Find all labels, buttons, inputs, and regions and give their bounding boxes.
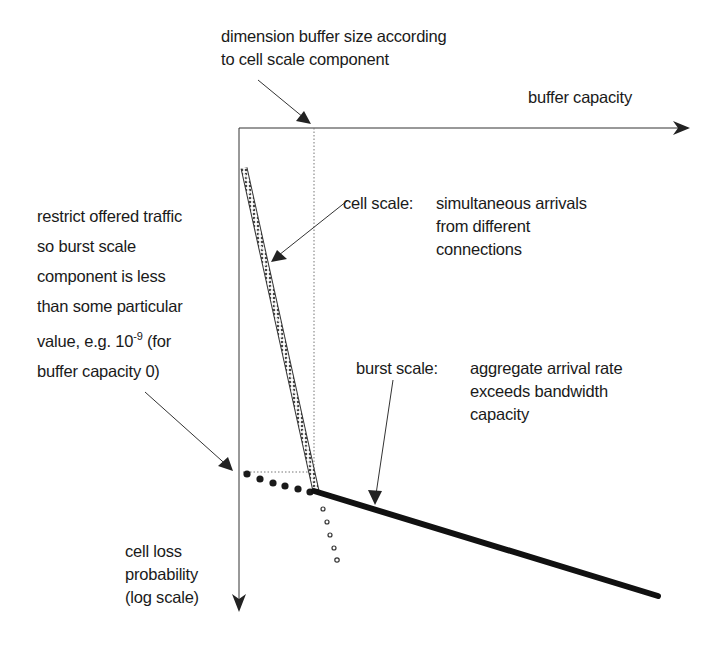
restrict-annotation: restrict offered traffic so burst scale … <box>37 201 183 386</box>
y-axis <box>232 128 246 612</box>
burst-scale-key: burst scale: <box>356 357 470 380</box>
y-axis-label: cell loss probability (log scale) <box>125 540 199 609</box>
dimension-annotation: dimension buffer size according to cell … <box>221 25 447 71</box>
burst-scale-curve <box>314 491 658 596</box>
cell-scale-curve <box>244 168 316 491</box>
cell-scale-arrow <box>271 201 347 262</box>
restrict-arrow <box>145 392 233 471</box>
cell-scale-arrowhead-icon <box>271 250 287 262</box>
x-axis-label: buffer capacity <box>528 86 632 109</box>
cell-scale-key: cell scale: <box>343 192 436 215</box>
cell-scale-annotation: cell scale:simultaneous arrivals from di… <box>343 192 587 261</box>
burst-scale-annotation: burst scale:aggregate arrival rate excee… <box>356 357 622 426</box>
dimension-arrow <box>258 80 311 124</box>
burst-scale-arrowhead-icon <box>368 490 382 505</box>
burst-scale-extrapolation-dots <box>243 470 313 495</box>
cell-scale-continuation <box>321 507 339 562</box>
